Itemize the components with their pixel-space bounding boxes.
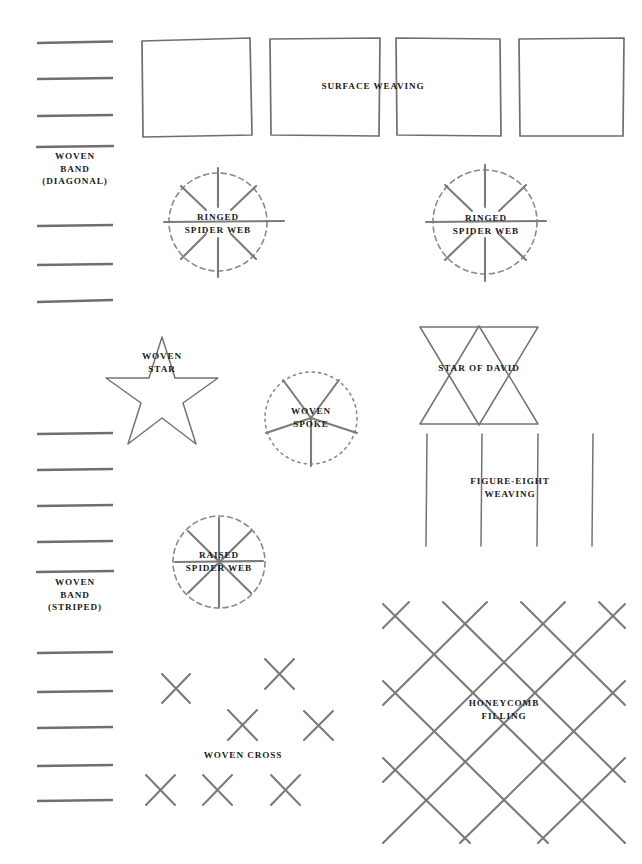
stitch-diagram-sheet: WOVEN BAND (DIAGONAL) SURFACE WEAVING RI… [0, 0, 642, 864]
star-of-david-shape [420, 326, 538, 425]
cross-mark [228, 710, 257, 740]
cross-mark [203, 775, 232, 805]
figure-eight-weaving-lines [426, 434, 593, 546]
surface-weaving-squares [142, 38, 624, 137]
ringed-spider-web-right [426, 165, 546, 281]
woven-star-shape [106, 337, 218, 444]
cross-mark [146, 775, 175, 805]
raised-spider-web-shape [173, 516, 265, 608]
cross-mark [265, 659, 294, 689]
cross-mark [271, 775, 300, 805]
cross-mark [162, 674, 190, 703]
woven-band-striped-lines [36, 433, 114, 801]
diagram-artwork [0, 0, 642, 864]
woven-band-diagonal-lines [36, 42, 114, 303]
ringed-spider-web-left [164, 168, 284, 277]
woven-cross-marks [146, 659, 333, 805]
cross-mark [304, 711, 333, 740]
honeycomb-filling-lattice [383, 602, 625, 843]
woven-spoke-shape [265, 372, 357, 466]
